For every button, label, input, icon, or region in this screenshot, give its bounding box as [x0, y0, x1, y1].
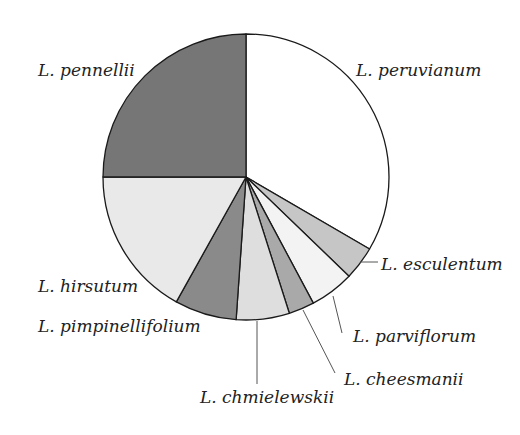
leader-parviflorum	[333, 296, 342, 333]
label-pimpinellifolium: L. pimpinellifolium	[37, 316, 201, 336]
label-esculentum: L. esculentum	[380, 254, 503, 274]
label-hirsutum: L. hirsutum	[37, 276, 138, 296]
label-parviflorum: L. parviflorum	[352, 326, 476, 346]
label-cheesmanii: L. cheesmanii	[343, 369, 464, 389]
pie-chart: L. pennellii L. peruvianum L. esculentum…	[0, 0, 520, 435]
leader-cheesmanii	[303, 310, 335, 373]
slice-pennellii	[103, 34, 246, 177]
pie-slices	[103, 34, 389, 320]
label-pennellii: L. pennellii	[37, 60, 135, 80]
label-chmielewskii: L. chmielewskii	[199, 387, 334, 407]
label-peruvianum: L. peruvianum	[355, 60, 481, 80]
